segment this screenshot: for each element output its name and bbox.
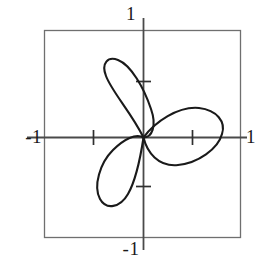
- axis-label-top: 1: [0, 4, 262, 23]
- rose-petal-lower-left: [97, 136, 143, 206]
- axis-label-left: -1: [2, 127, 42, 146]
- rose-petal-upper-left: [104, 59, 153, 138]
- axis-label-bottom: -1: [0, 239, 262, 258]
- rose-petal-right: [144, 108, 223, 165]
- axis-label-right: 1: [246, 127, 262, 146]
